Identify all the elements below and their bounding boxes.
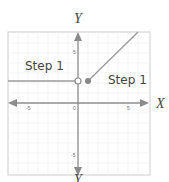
step-label-left: Step 1 [25, 59, 64, 73]
x-tick-0: 0 [73, 105, 76, 111]
x-tick-neg5: -5 [26, 105, 31, 111]
piecewise-graph: -5 0 5 5 -5 Y X Y Step 1 Step 1 [0, 0, 169, 182]
step-label-right: Step 1 [108, 73, 147, 87]
y-axis-label: Y [74, 11, 84, 26]
x-axis-label: X [155, 96, 165, 111]
open-circle-point [75, 78, 81, 84]
closed-circle-point [85, 78, 91, 84]
y-tick-5: 5 [73, 49, 76, 55]
x-tick-5: 5 [127, 105, 130, 111]
y-tick-neg5: -5 [71, 152, 76, 158]
